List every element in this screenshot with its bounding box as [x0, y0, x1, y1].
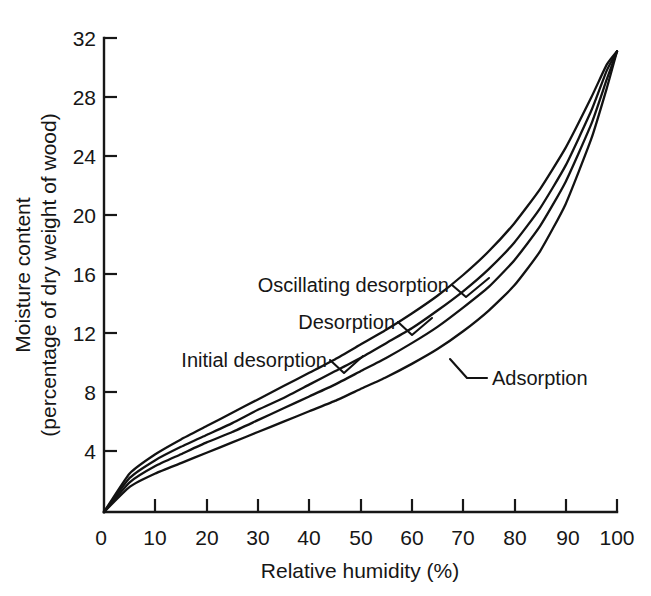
x-tick-label-90: 90: [556, 526, 579, 549]
y-tick-label-0: 0: [95, 526, 107, 549]
x-tick-label-60: 60: [400, 526, 423, 549]
x-tick-label-50: 50: [349, 526, 372, 549]
x-tick-label-100: 100: [599, 526, 634, 549]
y-tick-label-12: 12: [73, 322, 96, 345]
y-axis-title-line2: (percentage of dry weight of wood): [37, 113, 60, 436]
y-tick-label-4: 4: [84, 440, 96, 463]
curve-label-oscillating-desorption: Oscillating desorption: [258, 274, 449, 296]
y-tick-label-24: 24: [73, 145, 97, 168]
y-tick-label-20: 20: [73, 204, 96, 227]
x-tick-label-30: 30: [246, 526, 269, 549]
y-tick-labels-group: 32 28 24 20 16 12 8 4 0: [73, 27, 107, 549]
x-tick-label-20: 20: [195, 526, 218, 549]
y-axis-title-line1: Moisture content: [11, 197, 34, 352]
x-tick-label-80: 80: [503, 526, 526, 549]
x-tick-label-10: 10: [143, 526, 166, 549]
x-tick-labels-group: 10 20 30 40 50 60 70 80 90 100: [143, 526, 634, 549]
chart-figure: 32 28 24 20 16 12 8 4 0 10 20 30 40 50 6…: [0, 0, 651, 596]
y-tick-label-28: 28: [73, 86, 96, 109]
curve-label-initial-desorption: Initial desorption: [181, 349, 327, 371]
y-tick-label-32: 32: [73, 27, 96, 50]
x-axis-title: Relative humidity (%): [261, 559, 459, 582]
x-tick-label-70: 70: [451, 526, 474, 549]
curve-label-desorption: Desorption: [298, 311, 395, 333]
sorption-isotherm-chart: 32 28 24 20 16 12 8 4 0 10 20 30 40 50 6…: [0, 0, 651, 596]
curve-label-adsorption: Adsorption: [492, 367, 588, 389]
x-tick-label-40: 40: [297, 526, 320, 549]
y-tick-label-8: 8: [84, 381, 96, 404]
y-ticks-group: [104, 97, 117, 451]
leader-line-adsorption: [450, 359, 487, 378]
curve-labels-group: Oscillating desorption Desorption Initia…: [181, 274, 587, 389]
y-tick-label-16: 16: [73, 263, 96, 286]
x-ticks-group: [155, 499, 566, 512]
